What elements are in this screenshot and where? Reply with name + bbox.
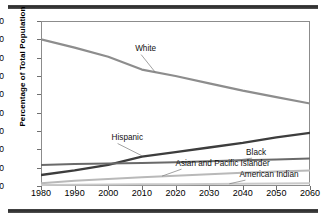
chart-page: Percentage of Total Population 010203040… <box>0 0 326 219</box>
y-tick-label: 60 <box>0 72 4 81</box>
x-tick-mark <box>209 186 210 190</box>
leader-line <box>118 144 142 156</box>
y-tick-label: 0 <box>0 182 4 191</box>
y-tick-label: 30 <box>0 127 4 136</box>
y-tick-label: 70 <box>0 54 4 63</box>
y-tick-label: 20 <box>0 145 4 154</box>
series-label-asian-and-pacific-islander: Asian and Pacific Islander <box>176 159 270 168</box>
series-line <box>41 183 310 185</box>
series-label-black: Black <box>246 148 266 157</box>
y-tick-label: 80 <box>0 35 4 44</box>
x-tick-mark <box>142 186 143 190</box>
x-tick-mark <box>243 186 244 190</box>
series-line <box>41 39 310 103</box>
y-tick-label: 50 <box>0 90 4 99</box>
x-tick-mark <box>310 186 311 190</box>
bottom-divider-rule <box>8 209 318 213</box>
x-tick-mark <box>276 186 277 190</box>
x-tick-mark <box>176 186 177 190</box>
x-tick-label: 2060 <box>290 188 326 198</box>
y-axis-title: Percentage of Total Population <box>18 0 27 137</box>
x-tick-mark <box>108 186 109 190</box>
y-tick-label: 40 <box>0 109 4 118</box>
plot-area: WhiteHispanicBlackAsian and Pacific Isla… <box>41 21 310 186</box>
series-label-white: White <box>135 44 156 53</box>
x-tick-mark <box>41 186 42 190</box>
x-tick-mark <box>75 186 76 190</box>
y-tick-label: 10 <box>0 164 4 173</box>
top-divider-rule <box>8 5 318 9</box>
y-tick-label: 90 <box>0 17 4 26</box>
series-label-american-indian: American Indian <box>239 170 298 179</box>
series-label-hispanic: Hispanic <box>112 133 143 142</box>
